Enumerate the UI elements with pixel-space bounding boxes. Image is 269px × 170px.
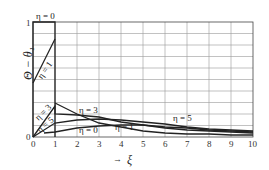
svg-text:2: 2 [75,139,80,149]
svg-text:0: 0 [31,139,36,149]
y-tick-1: 1 [26,18,31,28]
x-axis-arrow: → [113,154,122,164]
eta1-left-label: η = 1 [35,60,54,81]
svg-text:1: 1 [53,139,58,149]
x-ticks: 0 1 2 3 4 5 6 7 8 9 10 [31,139,258,149]
svg-text:9: 9 [229,139,234,149]
svg-text:10: 10 [248,139,258,149]
x-axis-label: ξ [127,153,133,167]
eta3-right-label: η = 3 [79,105,98,115]
eta5-right-label: η = 5 [173,113,192,123]
y-axis-label: Θ − θ₁ [21,47,35,80]
svg-text:6: 6 [163,139,168,149]
svg-text:5: 5 [141,139,146,149]
svg-text:4: 4 [119,139,124,149]
eta1-right-label: η = 1 [115,122,134,132]
svg-text:8: 8 [207,139,212,149]
svg-text:3: 3 [97,139,102,149]
eta0-top-label: η = 0 [36,11,55,21]
svg-text:7: 7 [185,139,190,149]
grid [33,22,253,137]
eta0-bottom-label: η = 0 [79,125,98,135]
chart: η = 0 η = 1 η = 3 η = 5 η = 3 η = 0 η = … [0,0,269,170]
